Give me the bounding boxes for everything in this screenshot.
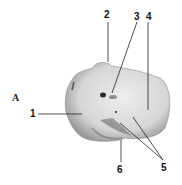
- label-1: 1: [30, 109, 36, 119]
- label-4: 4: [146, 12, 152, 22]
- label-6: 6: [117, 165, 123, 175]
- panel-label: A: [12, 92, 19, 103]
- bone-diagram: [0, 0, 182, 185]
- label-2: 2: [104, 10, 110, 20]
- label-3: 3: [134, 12, 140, 22]
- label-5: 5: [161, 163, 167, 173]
